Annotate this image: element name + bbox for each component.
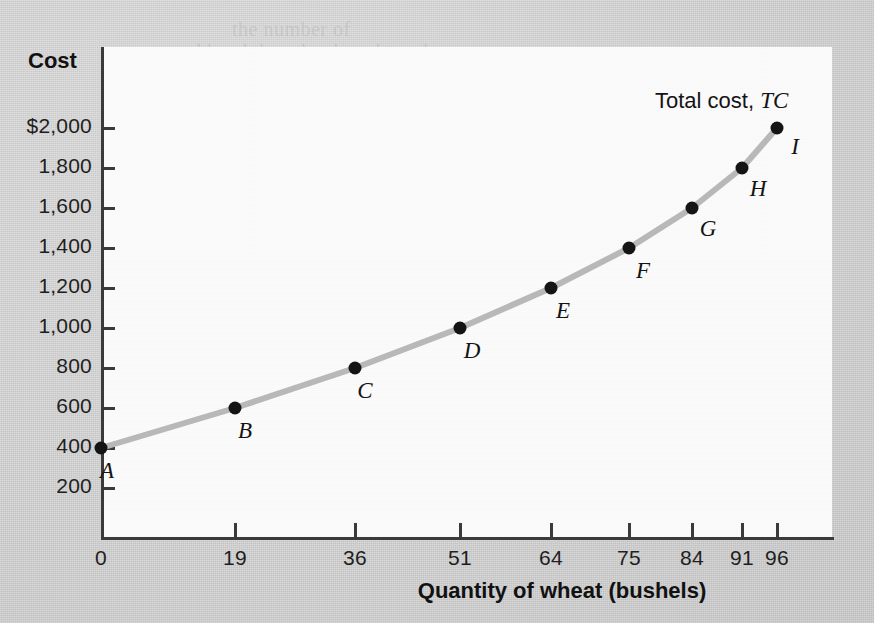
data-point-label-H: H [750,176,767,202]
figure-canvas: the number ofa second hand the other bou… [0,0,874,623]
data-point-C [349,362,362,375]
data-point-label-I: I [791,134,799,160]
data-point-H [736,162,749,175]
data-point-label-E: E [556,298,570,324]
data-point-label-D: D [464,338,481,364]
data-point-label-F: F [636,258,650,284]
data-point-label-B: B [238,418,252,444]
data-point-label-C: C [357,378,372,404]
data-point-B [229,402,242,415]
data-point-D [454,322,467,335]
data-point-G [686,202,699,215]
series-annotation-prefix: Total cost, [655,88,760,113]
data-point-A [95,442,108,455]
series-annotation-total-cost: Total cost, TC [655,88,788,114]
data-point-label-A: A [100,458,114,484]
data-point-E [545,282,558,295]
data-point-I [771,122,784,135]
data-point-F [623,242,636,255]
data-point-label-G: G [700,216,717,242]
series-annotation-symbol: TC [760,88,788,113]
